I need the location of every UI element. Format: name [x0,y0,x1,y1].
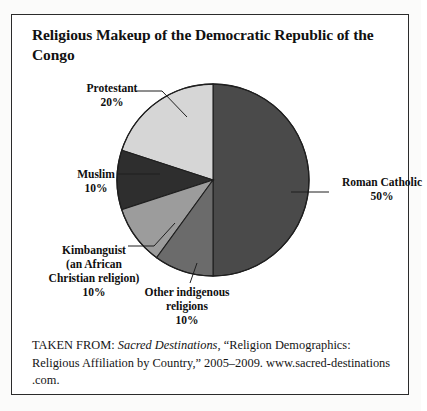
pie-slice-roman-catholic [213,84,309,276]
figure-frame: Religious Makeup of the Democratic Repub… [11,14,409,395]
pie-label-other-indigenous: Other indigenous religions 10% [128,285,246,327]
pie-label-roman-catholic: Roman Catholic 50% [334,175,427,203]
pie-label-protestant: Protestant 20% [59,81,165,109]
pie-chart: Protestant 20% Muslim 10% Kimbanguist (a… [12,15,410,327]
pie-label-muslim: Muslim 10% [50,167,142,195]
source-citation: TAKEN FROM: Sacred Destinations, “Religi… [32,337,394,390]
source-prefix: TAKEN FROM: [32,338,118,352]
source-title: Sacred Destinations [118,338,218,352]
